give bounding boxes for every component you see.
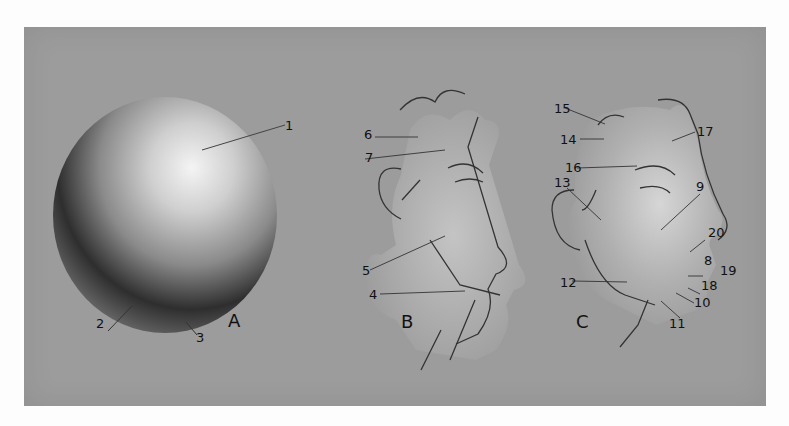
label-15: 15 xyxy=(554,102,571,115)
label-7: 7 xyxy=(365,151,373,164)
label-19: 19 xyxy=(720,264,737,277)
label-14: 14 xyxy=(560,133,577,146)
label-11: 11 xyxy=(669,317,686,330)
label-5: 5 xyxy=(362,264,370,277)
label-2: 2 xyxy=(96,317,104,330)
label-20: 20 xyxy=(708,226,725,239)
label-17: 17 xyxy=(697,125,714,138)
label-16: 16 xyxy=(565,161,582,174)
illustration-plate: 1 2 3 A 6 7 5 4 B 15 14 17 16 13 9 20 8 … xyxy=(24,27,766,406)
plate-drawing xyxy=(24,27,766,406)
label-18: 18 xyxy=(701,279,718,292)
label-8: 8 xyxy=(704,254,712,267)
label-12: 12 xyxy=(560,276,577,289)
figure-letter-c: C xyxy=(576,313,589,331)
label-13: 13 xyxy=(554,176,571,189)
label-3: 3 xyxy=(196,331,204,344)
label-6: 6 xyxy=(364,128,372,141)
label-10: 10 xyxy=(694,296,711,309)
figure-letter-b: B xyxy=(401,313,413,331)
sphere-figure-a xyxy=(53,97,285,335)
label-4: 4 xyxy=(369,288,377,301)
label-9: 9 xyxy=(696,180,704,193)
figure-letter-a: A xyxy=(228,312,240,330)
head-figure-b xyxy=(366,90,525,370)
label-1: 1 xyxy=(285,119,293,132)
